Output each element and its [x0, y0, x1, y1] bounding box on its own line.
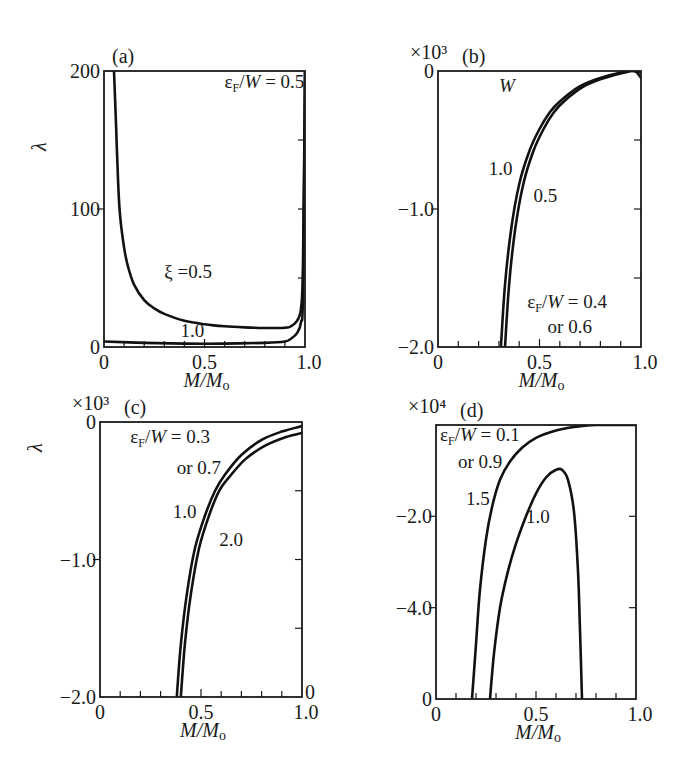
y-tick-label: −2.0 [396, 505, 432, 527]
y-axis-title: λ [24, 443, 46, 453]
panel-b: −2.0−1.0000.51.0M/Mo×10³(b)W1.00.5εF/W =… [398, 41, 658, 393]
y-tick-label: 0 [86, 411, 96, 433]
x-tick-label: 1.0 [628, 703, 653, 725]
x-tick-label: 1.0 [633, 351, 658, 373]
curve-annotation: 1.0 [489, 158, 513, 179]
curve-annotation: or 0.6 [548, 316, 592, 337]
panel-label: (a) [112, 45, 134, 68]
curve-annotation: 1.0 [180, 320, 204, 341]
figure-canvas: 010020000.51.0M/Moλ(a)εF/W = 0.5ξ =0.51.… [0, 0, 681, 778]
curve-annotation: εF/W = 0.4 [527, 291, 607, 315]
curve-annotation: εF/W = 0.1 [440, 424, 520, 448]
x-axis-title: M/Mo [183, 369, 230, 393]
y-tick-label: −2.0 [60, 686, 96, 708]
curve-annotation: W [499, 75, 517, 96]
x-tick-label: 1.0 [294, 701, 319, 723]
x-axis-title: M/Mo [179, 719, 226, 743]
curve-annotation: or 0.7 [177, 457, 221, 478]
x-tick-label: 0 [431, 703, 441, 725]
y-tick-label: 100 [70, 198, 100, 220]
curve-annotation: εF/W = 0.3 [130, 426, 210, 450]
panel-a: 010020000.51.0M/Moλ(a)εF/W = 0.5ξ =0.51.… [28, 45, 322, 393]
curve-annotation: 2.0 [219, 529, 243, 550]
curve-d-1 [490, 469, 582, 699]
y-tick-label: 200 [70, 60, 100, 82]
curve-annotation: 1.0 [526, 506, 550, 527]
curve-annotation: εF/W = 0.5 [225, 71, 305, 95]
x-tick-label: 0 [95, 701, 105, 723]
y-tick-label: −2.0 [398, 336, 434, 358]
y-multiplier-label: ×10⁴ [408, 395, 446, 417]
y-multiplier-label: ×10³ [72, 392, 109, 414]
y-tick-label: −4.0 [396, 597, 432, 619]
curve-annotation: 1.0 [173, 501, 197, 522]
x-tick-label: 0 [433, 351, 443, 373]
panel-label: (c) [124, 396, 146, 419]
x-axis-title: M/Mo [514, 721, 561, 745]
panel-label: (b) [462, 45, 485, 68]
curve-annotation: ξ =0.5 [164, 261, 212, 282]
curve-a-0 [114, 71, 305, 328]
y-multiplier-label: ×10³ [410, 41, 447, 63]
curve-annotation: or 0.9 [458, 451, 502, 472]
y-tick-label: −1.0 [398, 198, 434, 220]
y-axis-title: λ [28, 142, 50, 152]
y-tick-label: −1.0 [60, 549, 96, 571]
curve-a-1 [104, 71, 305, 344]
curve-annotation: 1.5 [466, 488, 490, 509]
y-tick-label: 0 [424, 60, 434, 82]
panel-d: 0−4.0−2.000.51.0M/Mo×10⁴(d)εF/W = 0.1or … [396, 395, 653, 745]
panel-c: −2.0−1.0000.51.00M/Moλ×10³(c)εF/W = 0.3o… [24, 392, 319, 743]
curve-annotation: 0.5 [533, 185, 557, 206]
plot-frame [104, 71, 305, 347]
panel-label: (d) [460, 399, 483, 422]
x-axis-title: M/Mo [518, 369, 565, 393]
x-tick-label: 0 [99, 351, 109, 373]
x-tick-label: 1.0 [297, 351, 322, 373]
right-axis-label: 0 [305, 681, 315, 703]
